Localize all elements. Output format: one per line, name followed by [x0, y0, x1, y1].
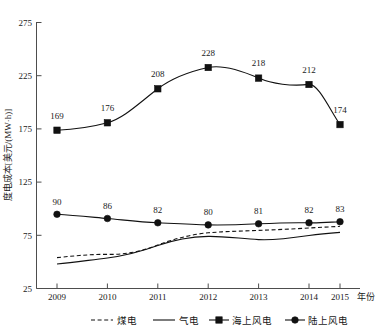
- y-tick-label: 75: [23, 231, 33, 241]
- point-label: 81: [254, 206, 263, 216]
- y-tick-label: 175: [19, 124, 33, 134]
- legend-item-coal[interactable]: 煤电: [91, 315, 137, 326]
- point-labels-onshore: 90 86 82 80 81 82 83: [53, 197, 346, 217]
- x-tick-label: 2013: [250, 292, 269, 302]
- legend-marker-offshore: [216, 317, 222, 323]
- chart-legend: 煤电 气电 海上风电 陆上风电: [91, 315, 348, 326]
- point-label: 82: [153, 205, 162, 215]
- y-axis-title: 度电成本[美元/(MW·h)]: [2, 109, 13, 201]
- series-line-offshore: [57, 67, 340, 130]
- chart-container: 275 225 175 125 75 25 2009 2010 2011 201…: [0, 0, 387, 334]
- point-label: 174: [333, 105, 347, 115]
- series-line-gas: [57, 232, 340, 264]
- point-label: 90: [53, 197, 63, 207]
- point-label: 228: [201, 48, 215, 58]
- point-label: 218: [252, 58, 266, 68]
- legend-item-onshore[interactable]: 陆上风电: [285, 315, 348, 326]
- point-label: 176: [101, 103, 115, 113]
- series-markers-onshore: [54, 211, 344, 228]
- y-axis-ticks: [37, 23, 42, 289]
- x-tick-label: 2015: [331, 292, 350, 302]
- x-tick-label: 2011: [149, 292, 167, 302]
- legend-label-coal: 煤电: [117, 315, 137, 326]
- line-chart: 275 225 175 125 75 25 2009 2010 2011 201…: [0, 0, 387, 334]
- series-line-onshore: [57, 214, 340, 225]
- y-tick-label: 25: [23, 284, 33, 294]
- x-tick-label: 2014: [300, 292, 319, 302]
- legend-label-offshore: 海上风电: [232, 315, 272, 326]
- x-axis-tick-labels: 2009 2010 2011 2012 2013 2014 2015: [48, 292, 350, 302]
- series-markers-offshore: [54, 64, 343, 133]
- legend-label-gas: 气电: [179, 315, 199, 326]
- y-tick-label: 125: [19, 177, 33, 187]
- legend-item-gas[interactable]: 气电: [153, 315, 199, 326]
- point-label: 169: [50, 111, 64, 121]
- x-axis-title: 年份: [357, 291, 375, 302]
- point-label: 208: [151, 69, 165, 79]
- legend-item-offshore[interactable]: 海上风电: [209, 315, 272, 326]
- point-label: 83: [336, 204, 346, 214]
- point-label: 86: [103, 201, 113, 211]
- y-axis-tick-labels: 275 225 175 125 75 25: [19, 18, 33, 294]
- y-tick-label: 225: [19, 71, 33, 81]
- y-tick-label: 275: [19, 18, 33, 28]
- series-line-coal: [57, 226, 340, 257]
- x-tick-label: 2010: [98, 292, 117, 302]
- point-label: 212: [302, 65, 316, 75]
- x-tick-label: 2009: [48, 292, 67, 302]
- x-tick-label: 2012: [199, 292, 217, 302]
- x-axis-ticks: [57, 284, 340, 289]
- point-label: 80: [204, 207, 214, 217]
- legend-label-onshore: 陆上风电: [308, 315, 348, 326]
- legend-marker-onshore: [292, 317, 299, 324]
- point-label: 82: [305, 205, 314, 215]
